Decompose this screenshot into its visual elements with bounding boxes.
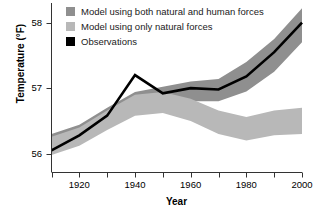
chart-legend: Model using both natural and human force… (66, 5, 264, 48)
x-tick-label: 1980 (229, 179, 263, 190)
x-tick-label: 1960 (174, 179, 208, 190)
band-model-using-only-natural-forces (52, 92, 303, 155)
legend-swatch-observations (66, 37, 75, 46)
legend-label-natural-forces: Model using only natural forces (81, 21, 213, 32)
legend-label-both-forces: Model using both natural and human force… (81, 6, 264, 17)
climate-temperature-chart: Model using both natural and human force… (0, 0, 315, 217)
legend-item-observations: Observations (66, 35, 264, 48)
legend-item-both-forces: Model using both natural and human force… (66, 5, 264, 18)
x-tick-label: 2000 (285, 179, 315, 190)
x-tick-label: 1940 (118, 179, 152, 190)
legend-swatch-both-forces (66, 7, 75, 16)
legend-item-natural-forces: Model using only natural forces (66, 20, 264, 33)
x-axis-title: Year (51, 196, 302, 207)
y-tick-label: 56 (22, 148, 42, 159)
legend-swatch-natural-forces (66, 22, 75, 31)
y-tick-label: 57 (22, 82, 42, 93)
x-tick-label: 1920 (62, 179, 96, 190)
legend-label-observations: Observations (81, 36, 137, 47)
y-tick-label: 58 (22, 17, 42, 28)
